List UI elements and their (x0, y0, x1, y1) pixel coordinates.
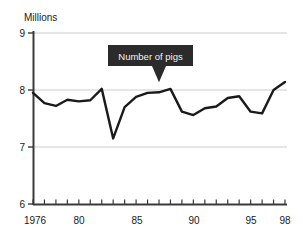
pig-population-chart: 9 8 7 6 Millions 1976 80 85 90 95 98 Num… (0, 0, 303, 248)
y-tick-label-6: 6 (19, 199, 25, 210)
x-tick-label-95: 95 (245, 215, 257, 226)
callout-label: Number of pigs (118, 51, 183, 62)
x-tick-label-90: 90 (188, 215, 200, 226)
y-tick-label-9: 9 (19, 28, 25, 39)
y-axis-title: Millions (24, 12, 57, 23)
x-tick-label-80: 80 (73, 215, 85, 226)
x-tick-label-98: 98 (279, 215, 291, 226)
x-tick-label-85: 85 (131, 215, 143, 226)
y-tick-label-8: 8 (19, 85, 25, 96)
x-tick-label-1976: 1976 (24, 215, 47, 226)
chart-canvas: 9 8 7 6 Millions 1976 80 85 90 95 98 Num… (0, 0, 303, 248)
chart-background (0, 0, 303, 248)
y-tick-label-7: 7 (19, 142, 25, 153)
